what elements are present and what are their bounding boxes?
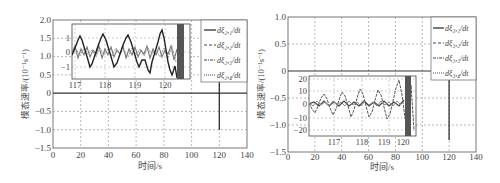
svg-text:80: 80 xyxy=(391,152,401,162)
svg-text:1.5: 1.5 xyxy=(40,33,52,43)
svg-text:−0.5: −0.5 xyxy=(35,106,52,116)
left-chart: 2.01.51.0 0.50−0.5 −1.0−1.5 02040 608010… xyxy=(20,15,254,171)
right-xticks: 02040 6080100 120140 xyxy=(286,152,484,162)
right-legend-1: dξ₃,₁/dt xyxy=(445,24,469,33)
left-yticks: 2.01.51.0 0.50−0.5 −1.0−1.5 xyxy=(35,15,52,153)
right-inset: 20100 −10−20 117118119120 xyxy=(294,74,416,147)
svg-text:40: 40 xyxy=(104,150,114,160)
svg-text:117: 117 xyxy=(69,80,81,90)
figure: 2.01.51.0 0.50−0.5 −1.0−1.5 02040 608010… xyxy=(0,0,500,183)
svg-text:−1.5: −1.5 xyxy=(35,143,52,153)
svg-text:40: 40 xyxy=(337,152,347,162)
svg-text:118: 118 xyxy=(356,137,368,147)
svg-text:0: 0 xyxy=(66,47,70,57)
svg-text:10: 10 xyxy=(299,86,308,96)
right-legend-2: dξ₃,₂/dt xyxy=(445,39,469,48)
left-legend-1: dξ₂,₁/dt xyxy=(217,26,241,35)
svg-text:0.5: 0.5 xyxy=(40,70,52,80)
svg-text:1.0: 1.0 xyxy=(275,12,287,22)
svg-text:120: 120 xyxy=(397,137,410,147)
left-xticks: 02040 6080100 120140 xyxy=(51,150,255,160)
svg-text:117: 117 xyxy=(328,137,340,147)
svg-text:120: 120 xyxy=(442,152,456,162)
left-legend: dξ₂,₁/dt dξ₂,₂/dt dξ₂,₃/dt dξ₂,₄/dt xyxy=(201,20,247,82)
svg-text:1.0: 1.0 xyxy=(40,51,52,61)
right-xlabel: 时间/s xyxy=(370,161,395,172)
svg-text:2.0: 2.0 xyxy=(40,15,52,25)
left-legend-3: dξ₂,₃/dt xyxy=(217,56,241,65)
svg-text:140: 140 xyxy=(240,150,254,160)
svg-text:20: 20 xyxy=(299,74,308,84)
svg-text:1: 1 xyxy=(66,33,70,43)
svg-text:−10: −10 xyxy=(294,113,307,123)
svg-text:−1.0: −1.0 xyxy=(35,125,52,135)
svg-text:100: 100 xyxy=(185,150,199,160)
svg-text:118: 118 xyxy=(99,80,111,90)
left-legend-4: dξ₂,₄/dt xyxy=(217,71,241,80)
right-legend-3: dξ₃,₃/dt xyxy=(445,54,469,63)
svg-text:0: 0 xyxy=(303,99,307,109)
svg-text:0: 0 xyxy=(286,152,291,162)
svg-text:0: 0 xyxy=(282,66,287,76)
right-legend: dξ₃,₁/dt dξ₃,₂/dt dξ₃,₃/dt dξ₃,₄/dt xyxy=(431,17,476,80)
svg-text:−1.0: −1.0 xyxy=(270,120,287,130)
svg-text:80: 80 xyxy=(159,150,169,160)
right-ylabel: 模态速率/(10⁻¹s⁻¹) xyxy=(256,49,266,119)
svg-text:−20: −20 xyxy=(294,125,307,135)
svg-text:0.5: 0.5 xyxy=(275,39,287,49)
svg-text:60: 60 xyxy=(132,150,142,160)
svg-text:60: 60 xyxy=(364,152,374,162)
left-ylabel: 模态速率/(10⁻¹s⁻¹) xyxy=(20,49,30,119)
svg-text:119: 119 xyxy=(378,137,390,147)
svg-text:−0.5: −0.5 xyxy=(270,93,287,103)
svg-text:0: 0 xyxy=(47,88,52,98)
svg-text:20: 20 xyxy=(310,152,320,162)
svg-text:20: 20 xyxy=(76,150,86,160)
svg-text:0: 0 xyxy=(51,150,56,160)
svg-text:120: 120 xyxy=(159,80,172,90)
left-legend-2: dξ₂,₂/dt xyxy=(217,41,241,50)
svg-text:−1.5: −1.5 xyxy=(270,147,287,157)
right-yticks: 1.00.50 −0.5−1.0−1.5 xyxy=(270,12,287,157)
svg-text:−1: −1 xyxy=(61,62,70,72)
svg-text:140: 140 xyxy=(469,152,483,162)
svg-text:119: 119 xyxy=(129,80,141,90)
svg-text:100: 100 xyxy=(416,152,430,162)
left-xlabel: 时间/s xyxy=(138,160,163,171)
svg-text:120: 120 xyxy=(213,150,227,160)
right-legend-4: dξ₃,₄/dt xyxy=(445,69,469,78)
right-chart: 1.00.50 −0.5−1.0−1.5 02040 6080100 12014… xyxy=(256,12,483,172)
